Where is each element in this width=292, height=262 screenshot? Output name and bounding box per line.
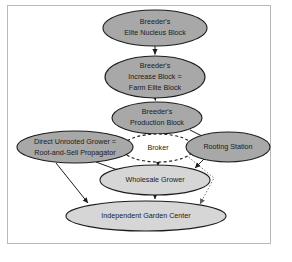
- flow-diagram: Breeder's Elite Nucleus Block Breeder's …: [0, 0, 292, 262]
- node-rooting-station[interactable]: Rooting Station: [186, 132, 270, 162]
- node-wholesale-grower[interactable]: Wholesale Grower: [100, 165, 210, 195]
- node-label-line: Root-and-Sell Propagator: [34, 148, 116, 157]
- node-label-line: Wholesale Grower: [125, 175, 185, 184]
- node-label-line: Breeder's: [140, 61, 171, 70]
- node-label-line: Breeder's: [140, 17, 171, 26]
- node-label-line: Elite Nucleus Block: [124, 28, 186, 37]
- edge-direct-to-independent-garden-center: [56, 163, 88, 203]
- node-elite-nucleus-block[interactable]: Breeder's Elite Nucleus Block: [103, 10, 207, 46]
- node-label-line: Farm Elite Block: [129, 83, 182, 92]
- node-label-line: Breeder's: [142, 107, 173, 116]
- node-increase-block[interactable]: Breeder's Increase Block = Farm Elite Bl…: [105, 56, 205, 98]
- node-production-block[interactable]: Breeder's Production Block: [112, 102, 202, 134]
- diagram-canvas: Breeder's Elite Nucleus Block Breeder's …: [0, 0, 292, 262]
- node-label-line: Rooting Station: [203, 142, 252, 151]
- node-independent-garden-center[interactable]: Independent Garden Center: [66, 201, 226, 231]
- node-label-line: Broker: [147, 143, 169, 152]
- node-label-line: Production Block: [130, 118, 184, 127]
- node-direct-unrooted-grower[interactable]: Direct Unrooted Grower = Root-and-Sell P…: [17, 131, 133, 163]
- node-label-line: Increase Block =: [128, 72, 181, 81]
- node-label-line: Independent Garden Center: [101, 211, 191, 220]
- node-label-line: Direct Unrooted Grower =: [34, 137, 116, 146]
